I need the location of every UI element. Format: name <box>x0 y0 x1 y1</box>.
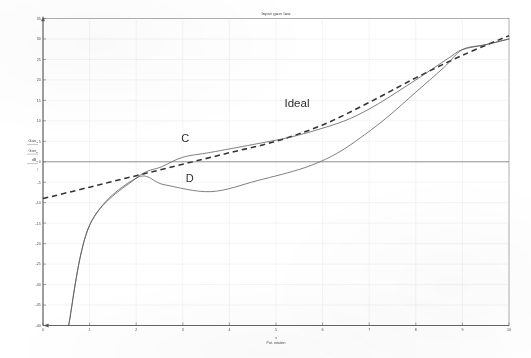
y-tick-label: -40 <box>36 324 41 328</box>
y-tick-label: 10 <box>37 119 41 123</box>
y-tick-label: -30 <box>36 283 41 287</box>
input-gain-law-chart: 35302520151050-5-10-15-20-25-30-35-40 01… <box>0 0 531 358</box>
y-tick-label: -35 <box>36 303 41 307</box>
y-tick-label: 25 <box>37 58 41 62</box>
x-tick-label: 10 <box>507 328 511 332</box>
y-tick-label: -25 <box>36 262 41 266</box>
annotation-d: D <box>186 172 194 184</box>
annotation-c: C <box>181 132 189 144</box>
x-tick-label: 8 <box>415 328 417 332</box>
y-tick-label: -10 <box>36 201 41 205</box>
x-tick-label: 7 <box>368 328 370 332</box>
y-tick-label: 20 <box>37 78 41 82</box>
y-axis-label-line: / <box>37 168 38 172</box>
annotation-ideal: Ideal <box>285 97 310 109</box>
x-tick-label: 2 <box>135 328 137 332</box>
y-tick-label: -5 <box>38 181 41 185</box>
y-tick-label: -15 <box>36 222 41 226</box>
x-tick-label: 1 <box>89 328 91 332</box>
figure-background <box>0 0 531 358</box>
x-tick-label: 9 <box>461 328 463 332</box>
y-tick-label: 0 <box>39 160 41 164</box>
x-tick-label: 0 <box>42 328 44 332</box>
x-tick-label: 3 <box>182 328 184 332</box>
x-tick-label: 6 <box>322 328 324 332</box>
x-tick-label: 4 <box>228 328 230 332</box>
y-tick-label: -20 <box>36 242 41 246</box>
y-tick-label: 35 <box>37 17 41 21</box>
y-tick-label: 30 <box>37 37 41 41</box>
chart-title: Input gain law <box>261 11 291 16</box>
x-tick-label: 5 <box>275 328 277 332</box>
x-axis-label-text: Pot. rotation <box>267 341 286 345</box>
chart-figure: 35302520151050-5-10-15-20-25-30-35-40 01… <box>0 0 531 358</box>
y-tick-label: 15 <box>37 99 41 103</box>
x-axis-label-symbol: x <box>275 336 277 340</box>
y-tick-label: 5 <box>39 140 41 144</box>
